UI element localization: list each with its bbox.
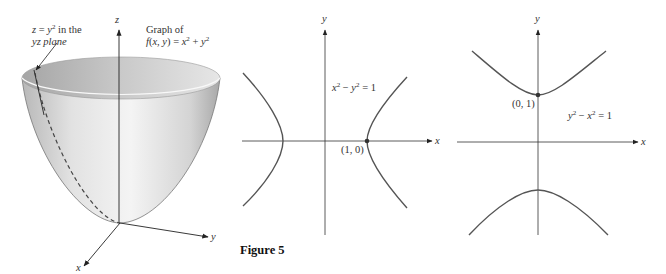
paraboloid-panel <box>22 30 220 266</box>
hyperbola-vertical-panel <box>457 30 638 235</box>
x-axis-3d <box>84 223 120 266</box>
y-axis-label-3d: y <box>211 231 216 243</box>
paraboloid-rim <box>22 57 220 99</box>
hyperbola-horizontal-panel <box>242 30 432 235</box>
upper-branch <box>472 51 606 95</box>
trace-label-line2: yz plane <box>32 36 67 48</box>
vertex-point <box>365 139 370 144</box>
lower-branch <box>469 190 608 235</box>
y-axis-label: y <box>322 13 327 25</box>
trace-label-line1: z = y2 in the <box>32 24 82 36</box>
figure-caption: Figure 5 <box>240 243 285 258</box>
function-label: f(x, y) = x2 + y2 <box>146 36 209 48</box>
point-label: (0, 1) <box>512 98 535 110</box>
equation-label: y2 − x2 = 1 <box>568 110 612 122</box>
y-axis-label: y <box>535 13 540 25</box>
x-axis-label-3d: x <box>76 262 81 274</box>
equation-label: x2 − y2 = 1 <box>332 82 376 94</box>
point-label: (1, 0) <box>341 144 364 156</box>
left-branch <box>243 73 283 206</box>
x-axis-label: x <box>435 135 440 147</box>
x-axis-label: x <box>641 136 646 148</box>
y-axis-3d <box>120 223 208 237</box>
vertex-point <box>536 93 541 98</box>
paraboloid-surface <box>22 78 220 223</box>
z-axis-label: z <box>115 14 119 26</box>
right-branch <box>367 77 407 208</box>
graph-title: Graph of <box>146 24 184 36</box>
